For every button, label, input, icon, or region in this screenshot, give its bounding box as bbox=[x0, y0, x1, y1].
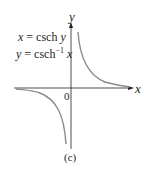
equation-2: y = csch−1 x bbox=[16, 47, 72, 60]
panel-label: (c) bbox=[64, 152, 76, 163]
origin-label: 0 bbox=[64, 91, 70, 102]
eq2-var: x bbox=[64, 47, 72, 61]
x-axis-label: x bbox=[135, 82, 141, 95]
eq2-func: csch bbox=[34, 47, 55, 61]
y-axis-label: y bbox=[69, 10, 75, 23]
eq2-sup: −1 bbox=[55, 46, 64, 55]
graph-canvas bbox=[0, 0, 144, 176]
eq1-var: y bbox=[60, 30, 65, 44]
eq1-eq: = bbox=[23, 30, 36, 44]
equation-1: x = csch y bbox=[18, 31, 66, 43]
eq2-eq: = bbox=[21, 47, 34, 61]
curve-negative-branch bbox=[16, 89, 66, 144]
curve-positive-branch bbox=[78, 32, 130, 87]
eq1-func: csch bbox=[36, 30, 60, 44]
